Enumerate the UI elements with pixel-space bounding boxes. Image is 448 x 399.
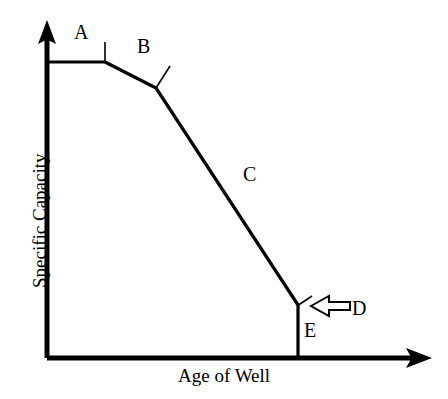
label-e: E — [304, 320, 316, 340]
label-d: D — [352, 298, 366, 318]
callout-leader-e — [297, 296, 312, 306]
label-b: B — [137, 36, 150, 56]
x-axis-title: Age of Well — [178, 366, 270, 385]
label-a: A — [74, 22, 88, 42]
left-arrow-icon — [311, 296, 350, 316]
specific-capacity-vs-age-graph — [0, 0, 448, 399]
label-c: C — [243, 164, 256, 184]
specific-capacity-curve — [47, 62, 298, 358]
callout-leader-b — [156, 66, 170, 88]
figure-container: A B C D E Specific Capacity Age of Well — [0, 0, 448, 399]
y-axis-title: Specific Capacity — [30, 153, 49, 288]
